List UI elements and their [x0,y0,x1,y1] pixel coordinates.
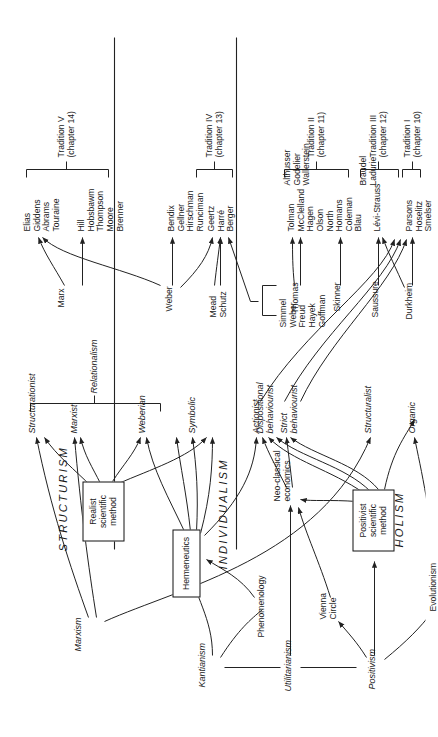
approach-dispositional-behaviourist: Dispositional behaviourist [254,382,274,433]
paradigm-structurism: STRUCTURISM [56,445,69,551]
founder-marx: Marx [56,288,66,307]
approach-strict-behaviourist: Strict behaviourist [278,384,298,433]
founder-mead-schutz: Mead Schutz [208,291,227,317]
philosophy-utilitarianism: Utilitarianism [282,639,292,691]
founder-simmel-group: Simmel Weber Freud Hayek Goffman [278,294,326,327]
tradition-iii: Tradition III (chapter 12) [368,111,387,157]
box-realist-scientific-method: Realist scientific method [82,481,124,541]
box-hermeneutics: Hermeneutics [172,529,200,597]
approach-marxist: Marxist [68,404,78,433]
node-evolutionism: Evolutionism [428,562,438,611]
tradition-i: Tradition I (chapter 10) [402,111,421,157]
node-marxism: Marxism [72,617,82,651]
approach-structuralist: Structuralist [362,385,372,433]
box-positivist-scientific-method: Positivist scientific method [352,489,394,551]
scholars-elias-group: Elias Giddens Abrams Touraine [22,198,61,231]
tradition-iv: Tradition IV (chapter 13) [204,111,223,157]
paradigm-individualism: INDIVIDUALISM [216,458,229,569]
scholars-tolman-group: Tolman McClelland Hagen Olson North [286,188,334,231]
founder-skinner: Skinner [332,282,342,311]
scholars-geertz-group: Geertz Harré Berger [206,205,235,231]
approach-organic: Organic [406,401,416,433]
founder-durkheim: Durkheim [404,282,414,319]
philosophy-kantianism: Kantianism [196,642,206,687]
tradition-v: Tradition V (chapter 14) [56,111,75,157]
philosophy-positivism: Positivism [366,648,376,689]
node-phenomenology: Phenomenology [256,575,266,637]
tradition-ii: Tradition II (chapter 11) [306,111,325,157]
approach-weberian: Weberian [136,395,146,433]
scholars-levi-strauss: Lévi-Strauss [372,183,382,231]
scholars-parsons-group: Parsons Hoselitz Smelser [404,199,433,231]
scholars-hill-group: Hill Hobsbawm Thompson Moore Brenner [76,188,124,231]
founder-saussure: Saussure [370,281,380,317]
founder-thomas: Thomas [290,282,300,313]
node-neo-classical-economics: Neo-classical economics [272,450,291,501]
approach-symbolic: Symbolic [186,396,196,433]
node-vienna-circle: Vienna Circle [318,592,337,619]
founder-weber: Weber [164,286,174,311]
bracket-relationalism: Relationalism [88,339,98,393]
scholars-braudel-group: Braudel Ladurie [358,155,377,185]
scholars-bendix-group: Bendix Gellner Hirschman Runciman [166,190,205,231]
approach-structurationist: Structurationist [26,373,36,433]
paradigm-holism: HOLISM [392,491,405,547]
scholars-homans-group: Homans Coleman Blau [334,197,363,231]
